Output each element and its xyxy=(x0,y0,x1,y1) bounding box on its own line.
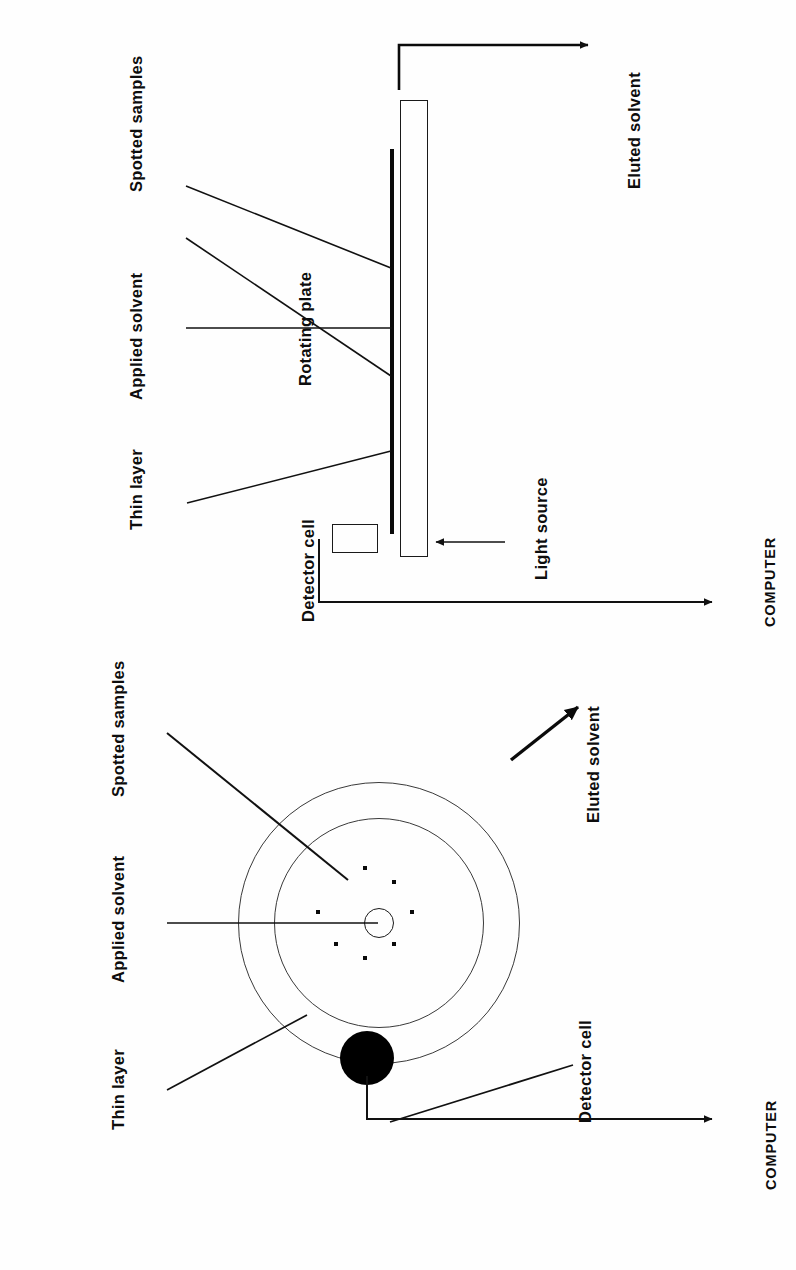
sample-spot xyxy=(392,942,396,946)
label-detector-cell-side: Detector cell xyxy=(300,519,317,622)
figure-page: Thin layer Applied solvent Spotted sampl… xyxy=(0,0,796,1270)
rotating-plate-body xyxy=(400,100,428,557)
label-spotted-samples-plan: Spotted samples xyxy=(110,660,127,797)
label-computer-plan: COMPUTER xyxy=(764,1100,779,1190)
sample-spot xyxy=(334,942,338,946)
label-thin-layer-side: Thin layer xyxy=(128,449,145,530)
detector-wire-vertical xyxy=(318,539,320,603)
plan-view-figure: Thin layer Applied solvent Spotted sampl… xyxy=(0,636,796,1270)
detector-cell-box xyxy=(332,524,378,553)
sample-spot xyxy=(363,956,367,960)
sample-spot xyxy=(410,910,414,914)
side-view-figure: Thin layer Applied solvent Spotted sampl… xyxy=(0,0,796,636)
sample-spot xyxy=(316,910,320,914)
label-eluted-solvent-plan: Eluted solvent xyxy=(585,706,602,823)
label-computer-side: COMPUTER xyxy=(763,537,778,627)
label-light-source-side: Light source xyxy=(533,477,550,580)
label-detector-cell-plan: Detector cell xyxy=(577,1020,594,1123)
label-rotating-plate-side: Rotating plate xyxy=(297,272,314,386)
label-applied-solvent-plan: Applied solvent xyxy=(110,856,127,983)
solvent-application-circle xyxy=(364,908,394,938)
detector-wire-horizontal xyxy=(318,601,333,603)
sample-spot xyxy=(363,866,367,870)
thin-layer-band xyxy=(390,149,394,534)
detector-wire-vertical-plan xyxy=(366,1076,368,1118)
sample-spot xyxy=(392,880,396,884)
label-spotted-samples-side: Spotted samples xyxy=(128,55,145,192)
label-eluted-solvent-side: Eluted solvent xyxy=(626,72,643,189)
label-thin-layer-plan: Thin layer xyxy=(110,1049,127,1130)
label-applied-solvent-side: Applied solvent xyxy=(128,273,145,400)
